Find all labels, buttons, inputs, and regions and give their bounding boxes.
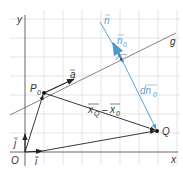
svg-text:x: x bbox=[109, 104, 116, 115]
vector-xq-minus-x0 bbox=[44, 93, 155, 130]
label-g: g bbox=[170, 36, 176, 47]
label-n0: n 0 bbox=[117, 35, 127, 48]
point-p0 bbox=[42, 91, 46, 95]
svg-text:x: x bbox=[87, 104, 94, 115]
svg-text:n: n bbox=[104, 15, 110, 26]
label-dn0: dn 0 bbox=[140, 85, 157, 98]
label-q: Q bbox=[162, 126, 170, 137]
right-angle-dot bbox=[120, 58, 122, 60]
svg-text:i: i bbox=[35, 156, 38, 167]
label-n: n bbox=[104, 15, 110, 26]
vector-xq bbox=[42, 131, 155, 151]
svg-text:0: 0 bbox=[153, 91, 157, 98]
distance-diagram: y x O P 0 Q g n n 0 dn 0 a i j x Q – x 0 bbox=[0, 0, 183, 179]
svg-text:j: j bbox=[12, 138, 17, 149]
point-q bbox=[155, 129, 159, 133]
svg-text:P: P bbox=[30, 83, 37, 94]
y-axis-label: y bbox=[16, 14, 23, 25]
label-a: a bbox=[70, 69, 76, 80]
svg-text:Q: Q bbox=[94, 110, 100, 118]
x-axis-label: x bbox=[170, 154, 177, 165]
svg-text:0: 0 bbox=[123, 41, 127, 48]
label-p0: P 0 bbox=[30, 83, 41, 96]
svg-text:0: 0 bbox=[116, 110, 120, 117]
svg-text:0: 0 bbox=[37, 89, 41, 96]
svg-text:dn: dn bbox=[140, 85, 152, 96]
label-i: i bbox=[35, 156, 39, 167]
origin-label: O bbox=[11, 155, 19, 166]
svg-text:–: – bbox=[101, 104, 108, 115]
label-j: j bbox=[12, 138, 18, 149]
line-g bbox=[10, 33, 176, 115]
label-xq-minus-x0: x Q – x 0 bbox=[87, 104, 120, 118]
svg-text:a: a bbox=[70, 69, 76, 80]
